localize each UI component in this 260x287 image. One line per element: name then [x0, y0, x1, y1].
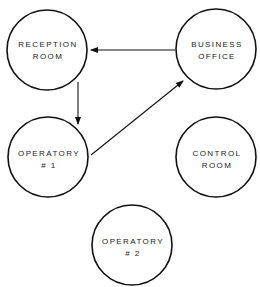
node-label-line2: # 2 [125, 249, 140, 258]
node-label-line2: OFFICE [198, 52, 236, 61]
node-operatory-2: OPERATORY # 2 [92, 205, 172, 285]
node-label-line2: ROOM [202, 161, 233, 170]
business-office-circle [176, 9, 256, 89]
node-label-line2: ROOM [33, 52, 64, 61]
node-label-line2: # 1 [41, 161, 56, 170]
node-control-room: CONTROL ROOM [176, 117, 256, 197]
node-label-line1: RECEPTION [18, 40, 77, 49]
room-flow-diagram: RECEPTION ROOM BUSINESS OFFICE OPERATORY… [0, 0, 260, 287]
node-reception-room: RECEPTION ROOM [7, 10, 87, 90]
node-label-line1: OPERATORY [18, 149, 80, 158]
arrow-operatory1-to-business [91, 81, 183, 155]
node-label-line1: OPERATORY [102, 237, 164, 246]
node-label-line1: BUSINESS [191, 40, 243, 49]
node-business-office: BUSINESS OFFICE [176, 9, 256, 89]
reception-room-circle [7, 10, 87, 90]
node-label-line1: CONTROL [193, 149, 242, 158]
node-operatory-1: OPERATORY # 1 [8, 117, 88, 197]
